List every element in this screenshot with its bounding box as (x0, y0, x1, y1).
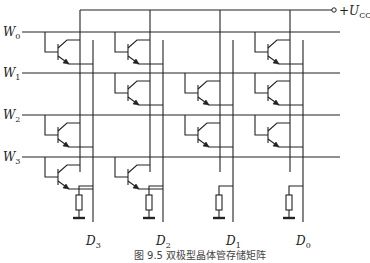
data-line-label: D3 (85, 234, 101, 250)
resistor-icon (216, 195, 222, 210)
resistor-lead (219, 186, 233, 195)
word-line-label: W0 (3, 25, 20, 41)
transistor-icon (45, 157, 93, 189)
transistor-cells (45, 32, 303, 189)
word-line-label: W1 (3, 66, 20, 82)
resistor-icon (76, 195, 82, 210)
rom-storage-matrix-diagram: +UCC W0W1W2W3 D3D2D1D0 图 9.5 双极型晶体管存储矩阵 (0, 0, 370, 263)
transistor-icon (115, 32, 163, 64)
load-resistors (73, 186, 303, 218)
resistor-lead (79, 186, 93, 195)
transistor-icon (185, 73, 233, 105)
svg-text:+UCC: +UCC (339, 4, 370, 20)
word-line-label: W2 (3, 108, 20, 124)
transistor-icon (185, 115, 233, 147)
resistor-lead (149, 186, 163, 195)
resistor-icon (286, 195, 292, 210)
transistor-icon (45, 115, 93, 147)
figure-caption: 图 9.5 双极型晶体管存储矩阵 (134, 249, 266, 261)
word-line-labels: W0W1W2W3 (3, 25, 20, 166)
word-line-label: W3 (3, 150, 20, 166)
data-line-labels: D3D2D1D0 (85, 234, 311, 250)
data-line-label: D2 (155, 234, 171, 250)
transistor-icon (255, 32, 303, 64)
resistor-lead (289, 186, 303, 195)
transistor-icon (255, 115, 303, 147)
resistor-icon (146, 195, 152, 210)
circuit-wires (22, 10, 340, 222)
supply-terminal-icon (332, 8, 336, 12)
supply-terminal: +UCC (332, 4, 370, 20)
transistor-icon (115, 157, 163, 189)
data-line-label: D0 (295, 234, 311, 250)
transistor-icon (45, 32, 93, 64)
data-line-label: D1 (225, 234, 241, 250)
supply-label: +U (339, 4, 360, 18)
transistor-icon (255, 73, 303, 105)
transistor-icon (115, 73, 163, 105)
supply-sub: CC (359, 11, 370, 20)
